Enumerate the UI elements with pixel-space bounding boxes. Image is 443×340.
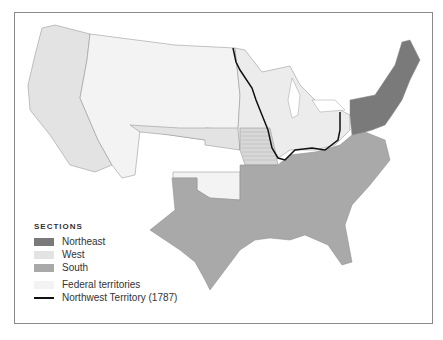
map-legend: SECTIONS Northeast West South Federal te…: [34, 222, 177, 304]
legend-title: SECTIONS: [34, 222, 177, 231]
legend-item-south: South: [34, 261, 177, 274]
south-swatch: [34, 264, 54, 272]
northeast-swatch: [34, 238, 54, 246]
federal-territories-swatch: [34, 281, 54, 289]
legend-item-northeast: Northeast: [34, 235, 177, 248]
legend-item-northwest-territory: Northwest Territory (1787): [34, 291, 177, 304]
legend-label: Northwest Territory (1787): [62, 292, 177, 303]
west-swatch: [34, 251, 54, 259]
legend-label: Northeast: [62, 236, 105, 247]
legend-label: Federal territories: [62, 279, 140, 290]
legend-label: West: [62, 249, 85, 260]
legend-item-federal-territories: Federal territories: [34, 278, 177, 291]
legend-label: South: [62, 262, 88, 273]
legend-item-west: West: [34, 248, 177, 261]
region-plains-west: [130, 125, 240, 150]
northwest-territory-line-swatch: [34, 297, 54, 299]
region-northeast: [350, 40, 420, 135]
